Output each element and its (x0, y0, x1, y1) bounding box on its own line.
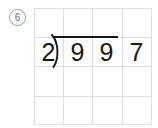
problem-number-badge: 6 (9, 9, 26, 26)
division-bracket-icon (50, 34, 64, 68)
grid-line-horizontal (34, 8, 152, 9)
grid-line-horizontal (34, 96, 152, 97)
dividend-digit-tens: 9 (92, 37, 121, 67)
math-worksheet-problem: 6 2 9 9 7 (0, 0, 158, 128)
grid-line-horizontal (34, 124, 152, 125)
divisor-digit-ones: 9 (63, 37, 92, 67)
dividend-digit-ones: 7 (122, 37, 151, 67)
division-vinculum-bar (54, 36, 118, 38)
